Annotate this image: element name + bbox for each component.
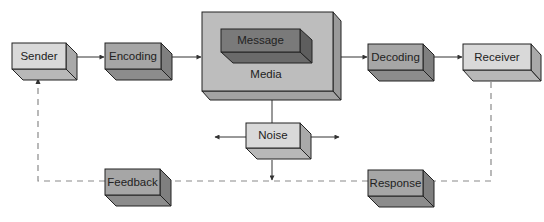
media-box: Message Media: [202, 12, 341, 100]
feedback-to-sender-dashed-line: [38, 76, 105, 181]
sender-label: Sender: [20, 50, 57, 62]
response-box: Response: [368, 170, 434, 207]
feedback-label: Feedback: [107, 176, 158, 188]
media-label: Media: [250, 68, 282, 80]
sender-box: Sender: [12, 43, 77, 80]
encoding-box: Encoding: [105, 43, 172, 80]
encoding-label: Encoding: [109, 50, 157, 62]
noise-label: Noise: [258, 129, 287, 141]
receiver-label: Receiver: [474, 51, 520, 63]
receiver-to-response-dashed-line: [433, 82, 491, 181]
response-label: Response: [370, 177, 422, 189]
communication-diagram: Sender Encoding Message Media Decoding R…: [0, 0, 544, 222]
noise-box: Noise: [246, 123, 311, 159]
decoding-label: Decoding: [371, 51, 420, 63]
feedback-box: Feedback: [105, 169, 171, 206]
decoding-box: Decoding: [368, 44, 434, 81]
message-box: Message: [221, 29, 312, 63]
message-label: Message: [237, 34, 284, 46]
receiver-box: Receiver: [463, 44, 541, 81]
